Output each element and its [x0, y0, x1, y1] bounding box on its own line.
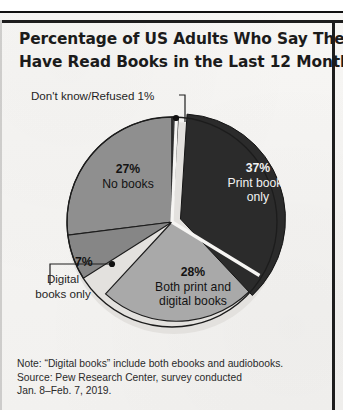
footnote-note: Note: “Digital books” include both ebook…	[17, 357, 329, 371]
slice-label-print-books-only-name-1: Print books	[203, 176, 313, 191]
pie-chart: Don't know/Refused 1% Digital books only…	[0, 0, 343, 410]
footnote-source: Source: Pew Research Center, survey cond…	[17, 371, 329, 385]
slice-label-no-books-name: No books	[80, 177, 176, 192]
chart-page: Percentage of US Adults Who Say They Hav…	[0, 0, 343, 410]
slice-label-no-books-pct: 27%	[80, 162, 176, 177]
slice-label-both-pct: 28%	[131, 265, 255, 280]
slice-label-no-books: 27% No books	[80, 162, 176, 191]
slice-label-print-books-only-pct: 37%	[203, 161, 313, 176]
footnote-date: Jan. 8–Feb. 7, 2019.	[17, 384, 329, 398]
callout-digital-books-only: Digital books only	[15, 271, 111, 301]
slice-label-print-books-only: 37% Print books only	[203, 161, 313, 205]
slice-label-both-print-and-digital: 28% Both print and digital books	[131, 265, 255, 309]
callout-digital-books-only-line-1: Digital	[15, 271, 111, 286]
leader-dot-dont-know	[173, 115, 179, 121]
slice-label-both-name-1: Both print and	[131, 280, 255, 295]
callout-digital-books-only-line-2: books only	[15, 286, 111, 301]
callout-dont-know-refused: Don't know/Refused 1%	[31, 89, 154, 102]
slice-label-print-books-only-name-2: only	[203, 190, 313, 205]
pie-chart-svg	[0, 0, 343, 410]
chart-footnote: Note: “Digital books” include both ebook…	[17, 357, 329, 398]
slice-label-digital-books-only-pct: 7%	[75, 255, 119, 270]
slice-label-both-name-2: digital books	[131, 294, 255, 309]
slice-label-digital-books-only-pct-wrap: 7%	[75, 255, 119, 270]
